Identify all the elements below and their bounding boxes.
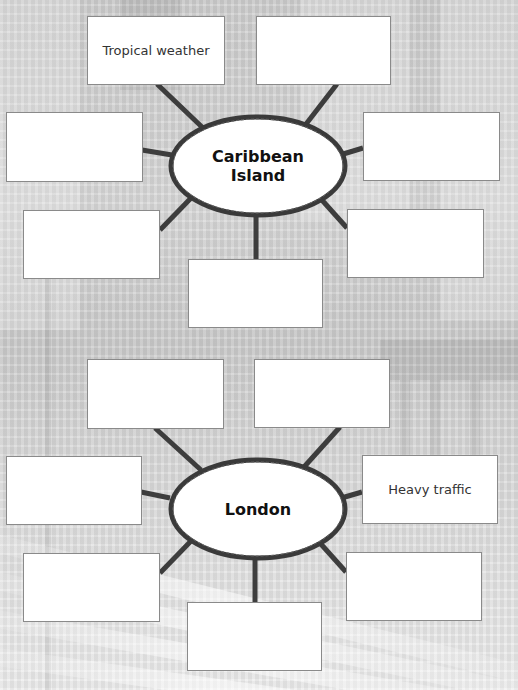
central-topic-label: Caribbean Island bbox=[212, 147, 304, 185]
central-topic-ellipse: Caribbean Island bbox=[166, 113, 350, 219]
idea-box-text: Heavy traffic bbox=[388, 482, 471, 497]
idea-box-top-left[interactable]: Tropical weather bbox=[87, 16, 225, 85]
idea-box-top-right[interactable] bbox=[254, 359, 390, 428]
idea-box-bottom-right[interactable] bbox=[346, 552, 482, 621]
idea-box-left[interactable] bbox=[6, 456, 142, 525]
central-topic-ellipse: London bbox=[166, 456, 350, 562]
idea-box-bottom[interactable] bbox=[188, 259, 323, 328]
idea-box-left[interactable] bbox=[6, 112, 143, 182]
idea-box-top-right[interactable] bbox=[256, 16, 391, 85]
idea-box-text: Tropical weather bbox=[102, 43, 209, 58]
idea-box-top-left[interactable] bbox=[87, 359, 224, 429]
idea-box-right[interactable]: Heavy traffic bbox=[362, 455, 498, 524]
idea-box-bottom-left[interactable] bbox=[23, 553, 160, 622]
idea-box-right[interactable] bbox=[363, 112, 500, 181]
central-topic-label: London bbox=[225, 500, 291, 519]
idea-box-bottom[interactable] bbox=[187, 602, 322, 671]
idea-box-bottom-left[interactable] bbox=[23, 210, 160, 279]
idea-box-bottom-right[interactable] bbox=[347, 209, 484, 278]
